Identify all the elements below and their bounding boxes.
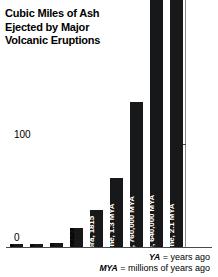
y-tick-label-0: 0	[14, 233, 20, 243]
bar-category-label: Mount Pinatubo, 1991	[30, 244, 37, 247]
bar-slot: Yellowstone, 1.3 MYA67	[110, 178, 123, 247]
ya-definition: = years ago	[160, 252, 210, 262]
footnote-ya: YA = years ago	[99, 252, 210, 263]
y-tick-label-100: 100	[14, 130, 31, 140]
bar-category-label: Yellowstone, 2.1 MYA	[170, 203, 177, 247]
bar: Yellowstone, 2.1 MYA	[170, 0, 183, 247]
bar-slot: Mount St. Helens, 1980.24	[10, 244, 23, 247]
y-axis-line	[185, 0, 186, 248]
plot-area: 0100 Mount St. Helens, 1980.24Mount Pina…	[6, 0, 186, 248]
bar: Long Valley, 760,000 MYA140	[130, 102, 143, 247]
bar: Tambora, 181536	[90, 210, 103, 247]
bar-slot: Krakatau, 18834.3	[50, 243, 63, 247]
bar-slot: Tambora, 181536	[90, 210, 103, 247]
footnote-mya: MYA = millions of years ago	[99, 263, 210, 274]
bar-slot: Mount Mazama, 7,600 YA18	[70, 228, 83, 247]
bar-category-label: Krakatau, 1883	[50, 243, 57, 247]
bar: Mount Pinatubo, 19912.4	[30, 244, 43, 247]
bar-category-label: Long Valley, 760,000 MYA	[130, 196, 137, 247]
y-tick-mark-0	[181, 247, 186, 248]
volcanic-ash-bar-chart: Cubic Miles of Ash Ejected by Major Volc…	[0, 0, 218, 277]
bar: Krakatau, 18834.3	[50, 243, 63, 247]
footnote-legend: YA = years ago MYA = millions of years a…	[99, 252, 210, 274]
bar-category-label: Mount Mazama, 7,600 YA	[70, 228, 77, 247]
bar-category-label: Yellowstone, 1.3 MYA	[110, 203, 117, 247]
bar: Yellowstone, 1.3 MYA67	[110, 178, 123, 247]
bar-category-label: Mount St. Helens, 1980	[10, 244, 17, 247]
bar-category-label: Tambora, 1815	[90, 216, 97, 247]
bar-slot: Yellowstone, 2.1 MYA	[170, 0, 183, 247]
bar-slot: Yellowstone, 640,000 MYA	[150, 0, 163, 247]
mya-abbreviation: MYA	[99, 263, 117, 273]
bar-slot: Long Valley, 760,000 MYA140	[130, 102, 143, 247]
bar: Mount St. Helens, 1980.24	[10, 244, 23, 247]
mya-definition: = millions of years ago	[118, 263, 210, 273]
bar: Mount Mazama, 7,600 YA18	[70, 228, 83, 247]
bar-slot: Mount Pinatubo, 19912.4	[30, 244, 43, 247]
bar: Yellowstone, 640,000 MYA	[150, 0, 163, 247]
ya-abbreviation: YA	[149, 252, 160, 262]
bar-category-label: Yellowstone, 640,000 MYA	[150, 195, 157, 247]
